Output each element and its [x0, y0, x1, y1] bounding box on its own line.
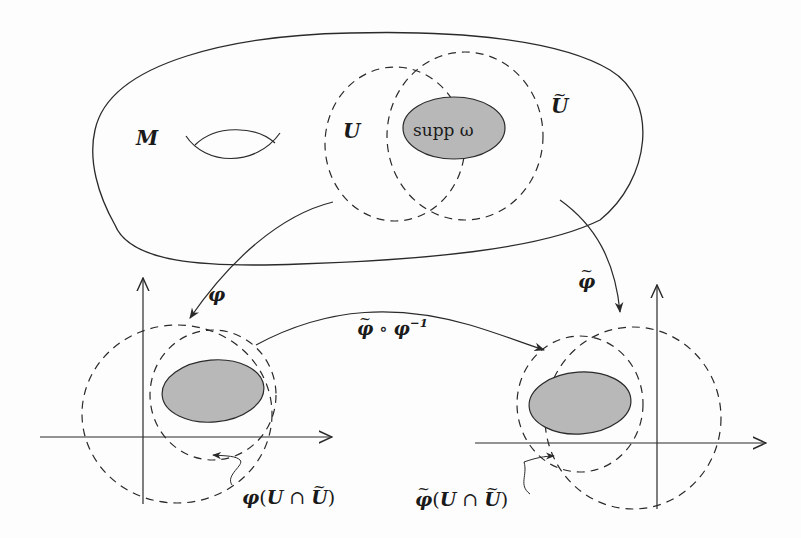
phi-tilde-label: φ: [578, 272, 595, 291]
phi-tilde-glyph: φ: [578, 272, 595, 291]
chart-U-tilde-label: U: [551, 96, 568, 116]
chart-U-label: U: [343, 121, 360, 141]
U-tilde-glyph: U: [551, 96, 568, 116]
right-overlap-image-label: φ(U ∩ U): [415, 490, 508, 509]
support-label: supp ω: [413, 122, 474, 139]
phi-label: φ: [208, 285, 225, 304]
right-support-image: [527, 369, 633, 438]
left-overlap-image-label: φ(U ∩ U): [242, 488, 335, 507]
map-phi-tilde-arrow: [560, 200, 620, 312]
manifold-hole-upper: [195, 130, 275, 145]
left-pointer-arrow: [213, 455, 241, 485]
manifold-chart-diagram: M U U supp ω φ φ φ ∘ φ−1 φ(U ∩ U) φ(U ∩ …: [0, 0, 801, 538]
right-pointer-arrow: [524, 456, 554, 494]
transition-map-label: φ ∘ φ−1: [357, 318, 428, 338]
phi-tilde-glyph: φ: [357, 320, 373, 338]
manifold-outline: [93, 32, 643, 265]
inverse-exponent: −1: [410, 316, 428, 330]
manifold-label: M: [136, 128, 158, 148]
left-support-image: [159, 356, 266, 427]
phi-glyph: φ: [394, 318, 410, 339]
diagram-canvas: [0, 0, 801, 538]
